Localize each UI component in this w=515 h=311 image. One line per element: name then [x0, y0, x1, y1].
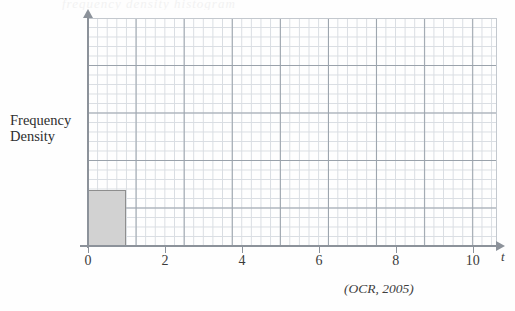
x-tick-mark [88, 246, 89, 253]
plot-area [88, 18, 497, 246]
scan-ghost-text: frequency density histogram [62, 0, 302, 10]
y-axis-line [87, 14, 89, 248]
x-tick-mark [473, 246, 474, 253]
x-tick-mark [396, 246, 397, 253]
source-attribution: (OCR, 2005) [344, 281, 414, 297]
x-tick-label: 6 [315, 253, 322, 269]
y-axis-label-line1: Frequency [10, 112, 86, 128]
x-tick-mark [165, 246, 166, 253]
y-axis-label: Frequency Density [10, 112, 86, 144]
histogram-bar [88, 190, 126, 246]
grid-border [88, 18, 497, 246]
y-axis-arrow-icon [83, 9, 93, 18]
x-tick-label: 8 [392, 253, 399, 269]
x-tick-mark [319, 246, 320, 253]
x-tick-label: 0 [85, 253, 92, 269]
x-tick-label: 2 [161, 253, 168, 269]
x-tick-mark [242, 246, 243, 253]
x-tick-label: 4 [238, 253, 245, 269]
figure-canvas: frequency density histogram 0246810 t Fr… [0, 0, 515, 311]
x-tick-label: 10 [466, 253, 480, 269]
y-axis-label-line2: Density [10, 128, 86, 144]
x-axis-line [80, 245, 498, 247]
x-axis-label: t [501, 249, 505, 265]
